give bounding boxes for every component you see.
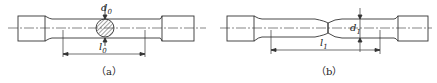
diameter-label-b: d1 bbox=[350, 23, 361, 36]
diameter-label-a: d0 bbox=[101, 3, 112, 16]
grip-left-a bbox=[18, 16, 45, 41]
specimen-diagram bbox=[0, 0, 437, 83]
length-label-b: l1 bbox=[320, 38, 328, 51]
grip-right-a bbox=[162, 16, 194, 41]
caption-a: （a） bbox=[96, 67, 122, 77]
caption-b: （b） bbox=[316, 67, 342, 77]
grip-right-b bbox=[398, 16, 428, 41]
length-label-a: l0 bbox=[99, 42, 107, 55]
grip-left-b bbox=[227, 16, 254, 41]
cross-section-a bbox=[96, 19, 114, 37]
